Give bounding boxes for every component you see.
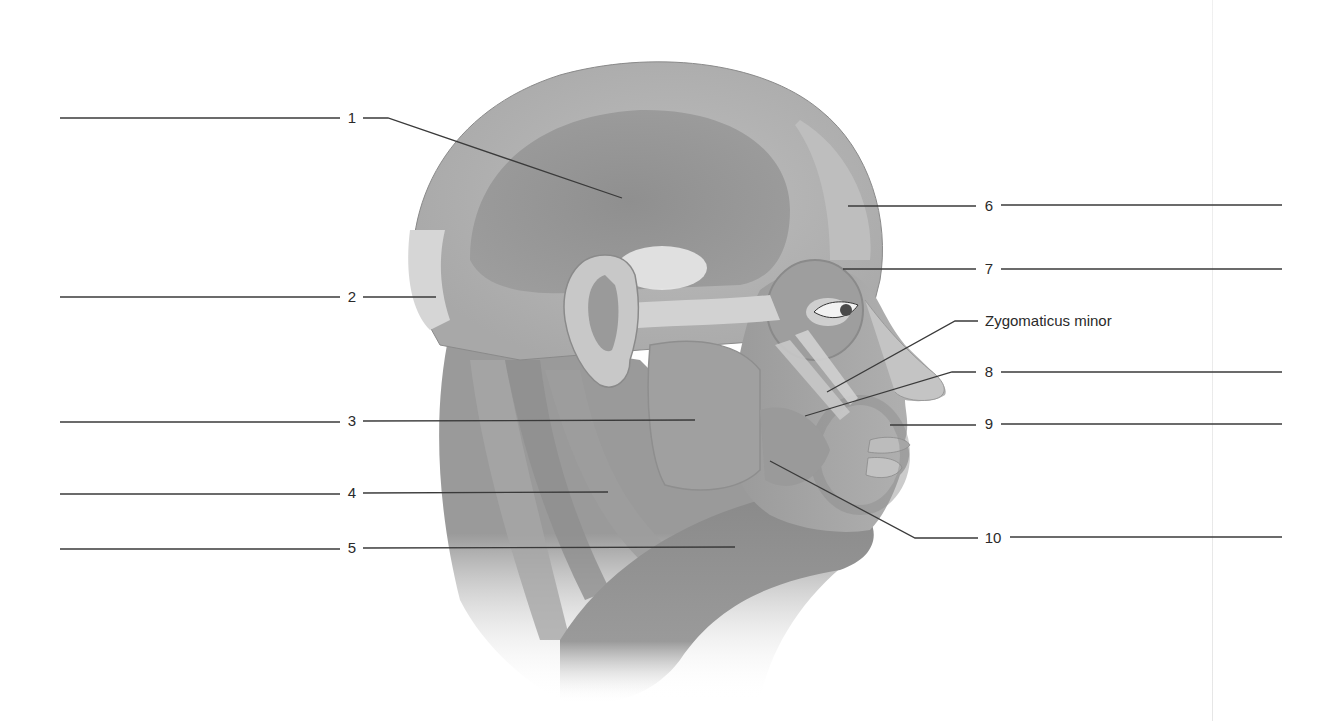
label-zygomaticus-minor: Zygomaticus minor [985,313,1112,329]
label-1: 1 [348,110,356,126]
label-3: 3 [348,413,356,429]
label-9: 9 [985,416,993,432]
label-7: 7 [985,261,993,277]
head-illustration [0,0,1337,721]
label-4: 4 [348,485,356,501]
muscle-diagram: 1 2 3 4 5 6 7 Zygomaticus minor 8 9 10 [0,0,1337,721]
label-5: 5 [348,540,356,556]
label-8: 8 [985,364,993,380]
label-10: 10 [985,530,1002,546]
label-6: 6 [985,198,993,214]
label-2: 2 [348,289,356,305]
